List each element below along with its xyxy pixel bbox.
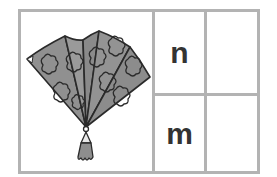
letter-n: n	[170, 38, 188, 68]
letter-cell-m: m	[155, 96, 204, 171]
phonics-card: n m	[18, 9, 260, 174]
fan-icon	[21, 12, 152, 171]
answer-cell-1[interactable]	[207, 12, 257, 93]
answer-cell-2[interactable]	[207, 96, 257, 171]
picture-cell	[21, 12, 152, 171]
letter-cell-n: n	[155, 12, 204, 93]
letter-m: m	[166, 119, 193, 149]
